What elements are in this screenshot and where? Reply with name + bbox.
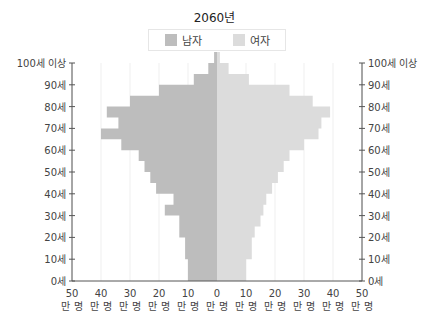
population-pyramid: 0세0세10세10세20세20세30세30세40세40세50세50세60세60세…	[0, 0, 429, 322]
y-axis-label-left: 30세	[44, 211, 66, 222]
x-axis-label-number: 30	[298, 288, 311, 299]
y-axis-label-left: 60세	[44, 145, 66, 156]
x-axis-label-unit: 만 명	[206, 301, 227, 312]
x-axis-label-unit: 만 명	[351, 301, 372, 312]
y-axis-label-right: 100세 이상	[368, 58, 417, 69]
y-axis-label-right: 70세	[368, 123, 390, 134]
y-axis-label-left: 90세	[44, 80, 66, 91]
x-axis-label-unit: 만 명	[177, 301, 198, 312]
y-axis-label-right: 60세	[368, 145, 390, 156]
x-axis-label-unit: 만 명	[61, 301, 82, 312]
x-axis-label-number: 20	[153, 288, 166, 299]
y-axis-label-left: 0세	[51, 276, 66, 287]
x-axis-label-number: 50	[66, 288, 79, 299]
female-population-area	[217, 52, 330, 281]
y-axis-label-left: 80세	[44, 102, 66, 113]
y-axis-label-right: 0세	[368, 276, 383, 287]
x-axis-label-unit: 만 명	[90, 301, 111, 312]
x-axis-label-number: 0	[214, 288, 220, 299]
x-axis-label-number: 40	[327, 288, 340, 299]
y-axis-label-right: 80세	[368, 102, 390, 113]
y-axis-label-left: 70세	[44, 123, 66, 134]
y-axis-label-right: 40세	[368, 189, 390, 200]
x-axis-label-unit: 만 명	[264, 301, 285, 312]
y-axis-label-right: 90세	[368, 80, 390, 91]
y-axis-label-right: 50세	[368, 167, 390, 178]
x-axis-label-unit: 만 명	[148, 301, 169, 312]
x-axis-label-unit: 만 명	[119, 301, 140, 312]
x-axis-label-number: 10	[182, 288, 195, 299]
x-axis-label-number: 30	[124, 288, 137, 299]
x-axis-label-number: 10	[240, 288, 253, 299]
y-axis-label-right: 20세	[368, 232, 390, 243]
x-axis-label-number: 50	[356, 288, 369, 299]
x-axis-label-unit: 만 명	[322, 301, 343, 312]
y-axis-label-right: 10세	[368, 254, 390, 265]
y-axis-label-left: 100세 이상	[17, 58, 66, 69]
y-axis-label-left: 50세	[44, 167, 66, 178]
y-axis-label-left: 10세	[44, 254, 66, 265]
x-axis-label-unit: 만 명	[293, 301, 314, 312]
x-axis-label-unit: 만 명	[235, 301, 256, 312]
y-axis-label-left: 40세	[44, 189, 66, 200]
y-axis-label-left: 20세	[44, 232, 66, 243]
x-axis-label-number: 20	[269, 288, 282, 299]
y-axis-label-right: 30세	[368, 211, 390, 222]
x-axis-label-number: 40	[95, 288, 108, 299]
